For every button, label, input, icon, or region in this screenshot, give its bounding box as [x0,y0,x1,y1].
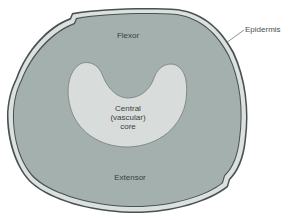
extensor-label: Extensor [100,173,160,182]
central-core-label-line-2: (vascular) [103,113,153,122]
flexor-label: Flexor [108,31,148,40]
central-core-label-line-3: core [103,122,153,131]
central-core-label: Central (vascular) core [103,104,153,131]
epidermis-leader-line [226,30,244,43]
central-core-label-line-1: Central [103,104,153,113]
epidermis-label: Epidermis [245,25,281,34]
